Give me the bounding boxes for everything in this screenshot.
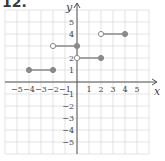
closed-endpoint	[98, 55, 103, 60]
x-tick-label: 1	[86, 85, 91, 94]
y-tick-label: −2	[62, 102, 74, 111]
closed-endpoint	[50, 67, 55, 72]
y-tick-label: 4	[69, 30, 74, 39]
x-tick-label: 2	[98, 85, 103, 94]
closed-endpoint	[26, 67, 31, 72]
x-tick-label: 5	[134, 85, 139, 94]
y-tick-label: 2	[69, 54, 74, 63]
closed-endpoint	[74, 43, 79, 48]
x-tick-label: −3	[35, 85, 47, 94]
open-endpoint	[50, 43, 55, 48]
x-tick-label: 3	[110, 85, 115, 94]
y-tick-label: −3	[62, 114, 74, 123]
x-tick-label: −5	[11, 85, 23, 94]
x-tick-label: −2	[47, 85, 59, 94]
x-axis-label: x	[154, 85, 161, 98]
y-tick-label: 5	[69, 18, 74, 27]
step-function-graph: xy−5−4−3−2−1123455421−1−2−3−4−5	[0, 0, 165, 161]
y-tick-label: −1	[62, 90, 74, 99]
y-tick-label: −5	[62, 138, 74, 147]
open-endpoint	[98, 31, 103, 36]
closed-endpoint	[122, 31, 127, 36]
y-tick-label: −4	[62, 126, 74, 135]
x-tick-label: −4	[23, 85, 35, 94]
y-axis-label: y	[65, 1, 73, 14]
y-tick-label: 1	[69, 66, 74, 75]
open-endpoint	[74, 55, 79, 60]
x-tick-label: 4	[122, 85, 127, 94]
